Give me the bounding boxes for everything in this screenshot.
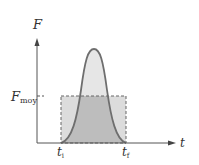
x-axis-arrow-icon (168, 141, 176, 146)
end-time-label: tf (122, 145, 131, 160)
start-time-label: ti (57, 145, 65, 160)
x-axis-label: t (180, 136, 185, 150)
y-axis-arrow-icon (35, 38, 40, 46)
y-axis-label: F (32, 17, 43, 32)
average-force-label: Fmoy (10, 89, 37, 105)
impulse-diagram: F t Fmoy ti tf (0, 0, 199, 165)
